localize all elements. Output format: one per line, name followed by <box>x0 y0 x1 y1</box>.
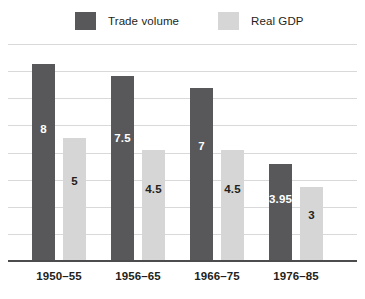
bar: 3 <box>300 187 323 261</box>
gridline <box>8 71 357 72</box>
x-axis-category-labels: 1950–551956–651966–751976–85 <box>8 270 357 290</box>
legend-swatch-real-gdp <box>218 12 239 30</box>
legend-label-real-gdp: Real GDP <box>251 15 304 27</box>
bar: 4.5 <box>221 150 244 261</box>
legend-swatch-trade-volume <box>75 12 96 30</box>
gridline <box>8 125 357 126</box>
bar-value-label: 3.95 <box>269 193 292 205</box>
bar-chart: Trade volume Real GDP 87.573.9554.54.53 … <box>0 0 365 299</box>
bar: 7 <box>190 88 213 261</box>
bar: 7.5 <box>111 76 134 261</box>
bar: 4.5 <box>142 150 165 261</box>
chart-legend: Trade volume Real GDP <box>0 10 365 36</box>
plot-area: 87.573.9554.54.53 <box>8 44 357 261</box>
x-axis-label: 1966–75 <box>177 270 257 282</box>
bar: 5 <box>63 138 86 261</box>
bar-value-label: 8 <box>32 123 55 135</box>
gridline <box>8 180 357 181</box>
bar-value-label: 4.5 <box>221 183 244 195</box>
x-axis-label: 1976–85 <box>256 270 336 282</box>
bar: 3.95 <box>269 164 292 261</box>
x-axis-label: 1950–55 <box>19 270 99 282</box>
x-axis-label: 1956–65 <box>98 270 178 282</box>
x-axis-line <box>8 260 357 262</box>
bar-value-label: 4.5 <box>142 183 165 195</box>
bar-value-label: 5 <box>63 175 86 187</box>
bar: 8 <box>32 64 55 261</box>
gridline <box>8 44 357 45</box>
legend-label-trade-volume: Trade volume <box>108 15 179 27</box>
legend-item-real-gdp: Real GDP <box>218 10 304 32</box>
gridline <box>8 153 357 154</box>
bar-value-label: 7 <box>190 140 213 152</box>
legend-item-trade-volume: Trade volume <box>75 10 179 32</box>
bar-value-label: 7.5 <box>111 132 134 144</box>
bar-value-label: 3 <box>300 209 323 221</box>
gridline <box>8 98 357 99</box>
